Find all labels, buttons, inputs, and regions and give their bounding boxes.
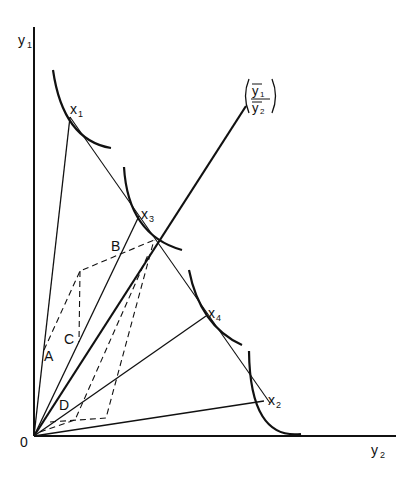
svg-text:2: 2	[260, 107, 265, 116]
svg-text:x: x	[70, 101, 77, 117]
svg-text:x: x	[208, 305, 215, 321]
point-label-x1: x 1	[70, 101, 83, 119]
vector-label-c: C	[64, 331, 74, 347]
dashed-path-c	[79, 271, 80, 342]
svg-text:3: 3	[149, 214, 154, 224]
vector-label-b: B	[111, 238, 120, 254]
ray-x3	[34, 216, 139, 436]
curve-x2	[249, 351, 301, 434]
svg-text:x: x	[141, 206, 148, 222]
svg-text:y: y	[252, 100, 259, 115]
curve-x4	[189, 270, 242, 345]
curve-x3	[124, 167, 182, 250]
svg-text:4: 4	[216, 313, 221, 323]
vector-label-d: D	[59, 397, 69, 413]
svg-text:2: 2	[276, 400, 281, 410]
ray-ybar-label: y 1 y 2	[246, 79, 276, 116]
y2-axis-label: y 2	[371, 442, 385, 460]
vector-label-a: A	[44, 348, 54, 364]
svg-text:y: y	[252, 83, 259, 98]
point-label-x4: x 4	[208, 305, 221, 323]
origin-label: 0	[20, 434, 28, 450]
y1-axis-label: y 1	[18, 32, 32, 50]
svg-text:x: x	[268, 392, 275, 408]
ray-x4	[34, 316, 206, 436]
svg-text:1: 1	[27, 40, 32, 50]
svg-text:y: y	[18, 32, 25, 48]
diagram-canvas: y 1 y 2 0 x 1 x 3 x 4 x 2 A B C D y 1 y …	[0, 0, 417, 485]
line-x1-x2	[70, 117, 270, 403]
svg-text:1: 1	[260, 90, 265, 99]
svg-text:y: y	[371, 442, 378, 458]
point-label-x3: x 3	[141, 206, 154, 224]
svg-text:1: 1	[78, 109, 83, 119]
point-label-x2: x 2	[268, 392, 281, 410]
svg-text:2: 2	[380, 450, 385, 460]
